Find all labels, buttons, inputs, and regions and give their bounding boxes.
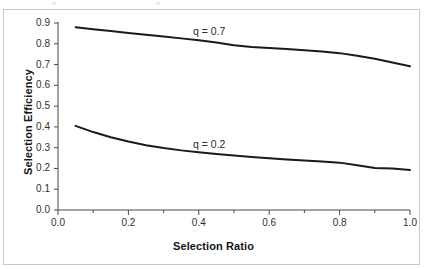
series-annotation-q07: q = 0.7 [193, 25, 225, 37]
x-tick-label: 0.2 [113, 217, 143, 228]
y-tick-label: 0.5 [26, 100, 50, 111]
series-line-1 [76, 126, 410, 170]
x-tick-label: 0.4 [184, 217, 214, 228]
y-tick-label: 0.3 [26, 142, 50, 153]
y-tick-label: 0.7 [26, 59, 50, 70]
data-series [76, 27, 410, 170]
x-tick-label: 1.0 [395, 217, 425, 228]
figure-page: Selection Ratio Selection Efficiency 0.0… [0, 0, 427, 269]
axes-group [58, 22, 410, 210]
y-tick-label: 0.6 [26, 79, 50, 90]
axis-ticks [54, 23, 410, 215]
y-tick-label: 0.4 [26, 121, 50, 132]
series-line-0 [76, 27, 410, 66]
x-tick-label: 0.6 [254, 217, 284, 228]
y-tick-label: 0.2 [26, 162, 50, 173]
x-tick-label: 0.8 [325, 217, 355, 228]
chart-plot-area [0, 0, 427, 269]
series-annotation-q02: q = 0.2 [193, 138, 225, 150]
y-tick-label: 0.1 [26, 183, 50, 194]
y-tick-label: 0.8 [26, 38, 50, 49]
y-tick-label: 0.0 [26, 204, 50, 215]
x-tick-label: 0.0 [43, 217, 73, 228]
y-tick-label: 0.9 [26, 17, 50, 28]
x-axis-title: Selection Ratio [0, 240, 427, 252]
